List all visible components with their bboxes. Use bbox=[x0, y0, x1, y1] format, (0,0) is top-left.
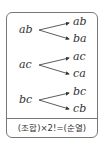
tree-branch-ca: ca bbox=[73, 68, 86, 80]
diagram-box: ab ab ba ac ac ca bc bc cb (조합)×2!=(순열) bbox=[6, 12, 98, 138]
tree-root-ab: ab bbox=[19, 24, 33, 36]
tree-branch-ab: ab bbox=[73, 16, 87, 28]
tree-branch-ba: ba bbox=[73, 33, 87, 45]
formula: (조합)×2!=(순열) bbox=[7, 121, 97, 135]
tree-branch-cb: cb bbox=[73, 103, 86, 115]
tree-branch-bc: bc bbox=[73, 86, 86, 98]
divider bbox=[7, 118, 97, 119]
tree-branch-ac: ac bbox=[73, 51, 86, 63]
tree-root-ac: ac bbox=[19, 59, 32, 71]
tree-root-bc: bc bbox=[19, 94, 32, 106]
